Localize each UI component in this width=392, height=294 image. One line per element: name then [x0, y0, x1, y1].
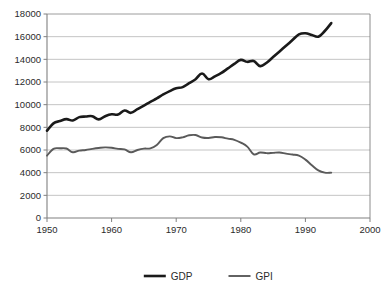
y-tick-label: 12000	[15, 76, 41, 87]
x-tick-label: 1970	[166, 224, 187, 235]
y-tick-label: 16000	[15, 31, 41, 42]
y-tick-label: 6000	[20, 144, 41, 155]
y-tick-label: 2000	[20, 190, 41, 201]
y-tick-label: 4000	[20, 167, 41, 178]
legend-label-gpi: GPI	[256, 271, 273, 282]
y-tick-label: 14000	[15, 54, 41, 65]
y-tick-label: 18000	[15, 8, 41, 19]
y-tick-label: 8000	[20, 122, 41, 133]
chart-container: 0200040006000800010000120001400016000180…	[0, 0, 392, 294]
y-tick-label: 10000	[15, 99, 41, 110]
x-tick-label: 1950	[36, 224, 57, 235]
line-chart: 0200040006000800010000120001400016000180…	[0, 0, 392, 294]
legend-label-gdp: GDP	[171, 271, 193, 282]
x-tick-label: 1990	[295, 224, 316, 235]
x-tick-label: 2000	[359, 224, 380, 235]
chart-background	[0, 0, 392, 294]
x-tick-label: 1980	[230, 224, 251, 235]
y-tick-label: 0	[36, 212, 41, 223]
x-tick-label: 1960	[101, 224, 122, 235]
